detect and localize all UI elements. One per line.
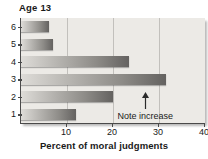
y-axis-label-1: 1: [11, 109, 16, 119]
bar-row: 2: [21, 91, 205, 102]
x-axis-ticklabel-30: 30: [153, 127, 163, 137]
bar-row: 6: [21, 21, 205, 32]
bar-category-3: [21, 74, 166, 85]
x-axis-tick-10: [66, 123, 67, 127]
x-axis-tick-30: [158, 123, 159, 127]
bar-row: 4: [21, 56, 205, 67]
y-axis-tick-5: [18, 44, 22, 45]
bar-category-2: [21, 91, 113, 102]
bar-category-1: [21, 109, 76, 120]
chart-title: Age 13: [19, 2, 51, 13]
bar-category-4: [21, 56, 129, 67]
annotation-text: Note increase: [117, 111, 173, 121]
y-axis-label-3: 3: [11, 74, 16, 84]
gridline-30: [159, 18, 160, 123]
bar-row: 1: [21, 109, 205, 120]
x-axis-ticklabel-40: 40: [199, 127, 208, 137]
gridline-10: [67, 18, 68, 123]
bar-chart-figure: Age 13 654321 Note increase 10203040 Per…: [0, 0, 208, 159]
y-axis-tick-1: [18, 114, 22, 115]
x-axis-title: Percent of moral judgments: [0, 140, 208, 151]
y-axis-tick-4: [18, 62, 22, 63]
bar-category-6: [21, 21, 49, 32]
x-axis-ticklabel-10: 10: [61, 127, 71, 137]
y-axis-label-2: 2: [11, 92, 16, 102]
y-axis-tick-2: [18, 97, 22, 98]
y-axis-tick-6: [18, 27, 22, 28]
x-axis-ticklabel-20: 20: [107, 127, 117, 137]
y-axis-label-5: 5: [11, 39, 16, 49]
y-axis-label-4: 4: [11, 57, 16, 67]
bar-row: 3: [21, 74, 205, 85]
bar-category-5: [21, 39, 53, 50]
bar-row: 5: [21, 39, 205, 50]
y-axis-label-6: 6: [11, 22, 16, 32]
x-axis-tick-40: [204, 123, 205, 127]
gridline-20: [113, 18, 114, 123]
plot-area: 654321 Note increase: [20, 18, 205, 123]
y-axis-tick-3: [18, 79, 22, 80]
x-axis-tick-20: [112, 123, 113, 127]
up-arrow-icon: [141, 92, 150, 109]
